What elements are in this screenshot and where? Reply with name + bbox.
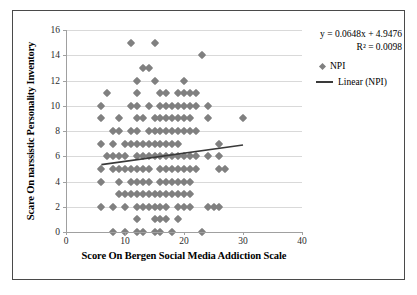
y-tick-label: 10	[40, 101, 60, 111]
x-tick-label: 40	[297, 236, 307, 246]
legend-item-npi[interactable]: NPI	[300, 58, 402, 74]
x-tick-mark	[184, 232, 185, 235]
y-tick-mark	[63, 182, 66, 183]
y-tick-mark	[63, 30, 66, 31]
y-tick-label: 12	[40, 76, 60, 86]
y-tick-label: 16	[40, 25, 60, 35]
y-tick-mark	[63, 131, 66, 132]
x-tick-label: 20	[179, 236, 189, 246]
y-tick-mark	[63, 207, 66, 208]
line-marker-icon	[316, 81, 333, 83]
plot-area	[66, 30, 302, 232]
regression-annotation: y = 0.0648x + 4.9476 R² = 0.0098	[300, 28, 402, 54]
y-tick-mark	[63, 156, 66, 157]
y-tick-label: 14	[40, 50, 60, 60]
y-tick-label: 2	[40, 202, 60, 212]
x-tick-mark	[302, 232, 303, 235]
legend-label-npi: NPI	[330, 61, 345, 71]
y-axis-line	[66, 30, 67, 232]
x-tick-label: 10	[120, 236, 130, 246]
x-tick-mark	[243, 232, 244, 235]
x-tick-label: 0	[64, 236, 69, 246]
diamond-marker-icon	[319, 62, 326, 69]
y-tick-label: 0	[40, 227, 60, 237]
figure-container: Scare On narssistic Personality Inventor…	[0, 0, 417, 295]
y-tick-label: 8	[40, 126, 60, 136]
x-axis-title: Score On Bergen Social Media Addiction S…	[66, 250, 302, 261]
y-tick-label: 4	[40, 177, 60, 187]
r-squared-value: R² = 0.0098	[300, 41, 402, 54]
x-tick-label: 30	[238, 236, 248, 246]
legend: NPI Linear (NPI)	[300, 58, 402, 90]
figure-caption	[12, 283, 405, 295]
y-axis-title: Scare On narssistic Personality Inventor…	[24, 30, 38, 232]
y-tick-mark	[63, 106, 66, 107]
x-tick-mark	[125, 232, 126, 235]
trendline	[66, 30, 302, 232]
y-tick-mark	[63, 55, 66, 56]
regression-equation: y = 0.0648x + 4.9476	[300, 28, 402, 41]
y-tick-label: 6	[40, 151, 60, 161]
legend-label-linear-npi: Linear (NPI)	[338, 77, 387, 87]
y-tick-mark	[63, 81, 66, 82]
legend-item-linear-npi[interactable]: Linear (NPI)	[300, 74, 402, 90]
x-tick-mark	[66, 232, 67, 235]
